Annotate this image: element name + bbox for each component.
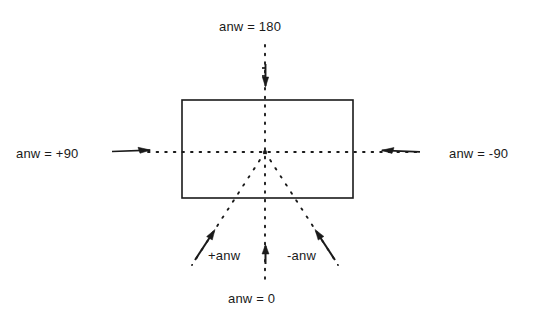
reference-rectangle <box>182 100 353 198</box>
diagram-canvas <box>0 0 536 322</box>
angle-convention-diagram: anw = 180 anw = +90 anw = -90 anw = 0 +a… <box>0 0 536 322</box>
label-negative-anw: -anw <box>287 249 316 262</box>
origin-point <box>263 150 267 154</box>
left-direction-arrow <box>112 147 151 153</box>
label-anw-180: anw = 180 <box>219 20 281 33</box>
label-anw-plus-90: anw = +90 <box>16 147 79 160</box>
bottom-direction-arrow <box>262 245 269 265</box>
label-anw-0: anw = 0 <box>228 292 275 305</box>
negative-angle-arrow <box>315 230 335 261</box>
top-direction-arrow <box>262 64 269 87</box>
label-positive-anw: +anw <box>208 249 240 262</box>
label-anw-minus-90: anw = -90 <box>449 147 508 160</box>
